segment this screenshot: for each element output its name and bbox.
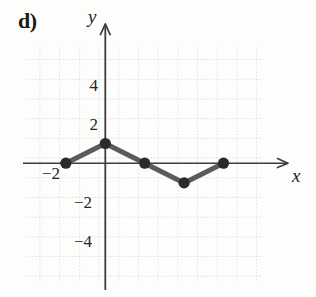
y-tick-label-neg-2: −2 — [66, 193, 92, 213]
y-tick-label-4: 4 — [72, 76, 98, 96]
data-point — [218, 158, 229, 169]
graph-figure: d) y x — [0, 0, 316, 297]
data-point — [100, 138, 111, 149]
data-point — [179, 177, 190, 188]
y-tick-label-neg-4: −4 — [66, 232, 92, 252]
coordinate-plane — [0, 0, 316, 297]
data-point — [139, 158, 150, 169]
data-point — [60, 158, 71, 169]
x-tick-label-neg-2: −2 — [42, 164, 60, 184]
y-tick-label-2: 2 — [72, 115, 98, 135]
